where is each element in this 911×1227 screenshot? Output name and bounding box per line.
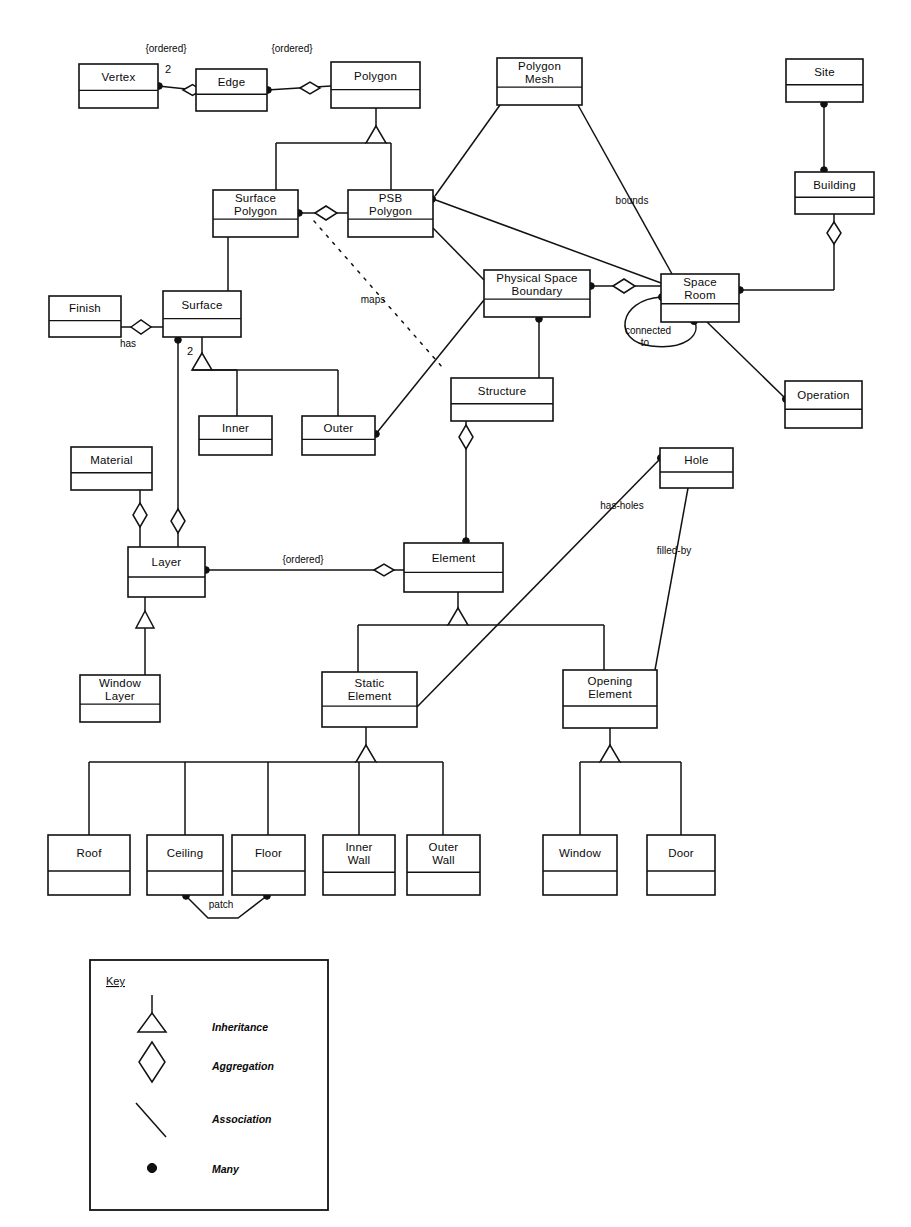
class-box-window_layer[interactable]: WindowLayer bbox=[80, 675, 160, 722]
class-name-text: Element bbox=[588, 688, 632, 700]
class-name-text: Polygon bbox=[518, 60, 561, 72]
legend-aggregation-label: Aggregation bbox=[211, 1060, 274, 1072]
edge-label-maps: maps bbox=[361, 294, 385, 305]
edge-label-mult_vertex: 2 bbox=[165, 63, 171, 75]
class-name-text: Finish bbox=[69, 302, 101, 314]
class-name-text: Outer bbox=[324, 422, 354, 434]
class-box-operation[interactable]: Operation bbox=[785, 381, 862, 428]
class-name-text: Space bbox=[683, 276, 717, 288]
class-name-text: Edge bbox=[218, 76, 246, 88]
class-box-site[interactable]: Site bbox=[786, 59, 863, 102]
class-name-text: Surface bbox=[235, 192, 276, 204]
relationship-connectors bbox=[89, 82, 841, 918]
edge-labels-layer: {ordered}{ordered}2boundsmapshas2connect… bbox=[120, 43, 691, 910]
class-name-text: Element bbox=[348, 690, 392, 702]
class-name-text: Wall bbox=[348, 854, 371, 866]
class-box-static_element[interactable]: StaticElement bbox=[322, 672, 417, 727]
edge-label-connected_to_2: to bbox=[641, 337, 650, 348]
class-boxes-layer: VertexEdgePolygonPolygonMeshSiteSurfaceP… bbox=[48, 58, 874, 895]
class-box-floor[interactable]: Floor bbox=[232, 835, 305, 895]
legend-association-label: Association bbox=[211, 1113, 272, 1125]
class-frame bbox=[647, 835, 715, 895]
class-name-text: Window bbox=[559, 847, 602, 859]
class-box-structure[interactable]: Structure bbox=[451, 378, 553, 421]
class-name-text: PSB bbox=[379, 192, 403, 204]
edge-label-connected_to_1: connected bbox=[625, 325, 671, 336]
class-name-text: Inner bbox=[222, 422, 249, 434]
class-name-text: Operation bbox=[797, 389, 849, 401]
legend-inheritance-label: Inheritance bbox=[212, 1021, 268, 1033]
class-box-ceiling[interactable]: Ceiling bbox=[147, 835, 223, 895]
class-box-material[interactable]: Material bbox=[71, 447, 152, 490]
edge-label-has: has bbox=[120, 338, 136, 349]
class-box-roof[interactable]: Roof bbox=[48, 835, 130, 895]
class-box-outer_wall[interactable]: OuterWall bbox=[407, 835, 480, 895]
class-box-window[interactable]: Window bbox=[543, 835, 617, 895]
class-name-text: Layer bbox=[105, 690, 135, 702]
class-name-text: Polygon bbox=[354, 70, 397, 82]
class-box-finish[interactable]: Finish bbox=[49, 296, 121, 337]
legend-many-symbol bbox=[147, 1163, 156, 1172]
diagram-canvas: VertexEdgePolygonPolygonMeshSiteSurfaceP… bbox=[0, 0, 911, 1227]
class-name-text: Hole bbox=[684, 454, 708, 466]
edge-label-filled_by: filled-by bbox=[657, 545, 691, 556]
class-frame bbox=[232, 835, 305, 895]
class-box-element[interactable]: Element bbox=[404, 543, 503, 592]
class-name-text: Ceiling bbox=[167, 847, 204, 859]
class-name-text: Wall bbox=[432, 854, 455, 866]
legend-frame bbox=[90, 960, 328, 1210]
class-box-surface[interactable]: Surface bbox=[163, 291, 241, 337]
class-box-outer[interactable]: Outer bbox=[302, 416, 375, 455]
class-box-opening_element[interactable]: OpeningElement bbox=[563, 670, 657, 728]
class-box-surface_polygon[interactable]: SurfacePolygon bbox=[213, 190, 298, 237]
legend-key: Key Inheritance Aggregation Association … bbox=[90, 960, 328, 1210]
class-name-text: Floor bbox=[255, 847, 282, 859]
edge-label-ordered_vertex_edge: {ordered} bbox=[145, 43, 187, 54]
class-box-inner_wall[interactable]: InnerWall bbox=[323, 835, 395, 895]
class-box-psb[interactable]: Physical SpaceBoundary bbox=[484, 270, 590, 317]
class-box-psb_polygon[interactable]: PSBPolygon bbox=[348, 190, 433, 237]
class-frame bbox=[785, 381, 862, 428]
edge-label-bounds: bounds bbox=[616, 195, 649, 206]
edge-label-has_holes: has-holes bbox=[600, 500, 643, 511]
class-frame bbox=[128, 547, 205, 597]
class-frame bbox=[404, 543, 503, 592]
class-name-text: Layer bbox=[152, 556, 182, 568]
class-name-text: Outer bbox=[429, 841, 459, 853]
class-name-text: Static bbox=[355, 677, 385, 689]
legend-title: Key bbox=[106, 975, 125, 987]
edge-label-mult_surface: 2 bbox=[187, 345, 193, 357]
class-box-building[interactable]: Building bbox=[795, 172, 874, 214]
class-box-space_room[interactable]: SpaceRoom bbox=[661, 274, 739, 322]
class-name-text: Polygon bbox=[234, 205, 277, 217]
class-name-text: Site bbox=[814, 66, 835, 78]
class-name-text: Door bbox=[668, 847, 694, 859]
class-box-vertex[interactable]: Vertex bbox=[79, 64, 158, 108]
class-frame bbox=[543, 835, 617, 895]
legend-many-label: Many bbox=[212, 1163, 240, 1175]
edge-label-ordered_layer: {ordered} bbox=[282, 554, 324, 565]
class-frame bbox=[147, 835, 223, 895]
class-name-text: Surface bbox=[181, 299, 222, 311]
class-box-polygon[interactable]: Polygon bbox=[331, 62, 420, 108]
class-box-door[interactable]: Door bbox=[647, 835, 715, 895]
class-name-text: Boundary bbox=[512, 285, 563, 297]
edge-label-patch: patch bbox=[209, 899, 233, 910]
class-name-text: Building bbox=[813, 179, 856, 191]
class-frame bbox=[48, 835, 130, 895]
class-box-polygon_mesh[interactable]: PolygonMesh bbox=[497, 58, 582, 105]
class-name-text: Room bbox=[684, 289, 715, 301]
uml-class-diagram: VertexEdgePolygonPolygonMeshSiteSurfaceP… bbox=[0, 0, 911, 1227]
class-name-text: Physical Space bbox=[496, 272, 577, 284]
class-name-text: Element bbox=[432, 552, 476, 564]
class-box-inner[interactable]: Inner bbox=[199, 416, 272, 455]
class-name-text: Window bbox=[99, 677, 142, 689]
class-name-text: Structure bbox=[478, 385, 526, 397]
class-name-text: Inner bbox=[345, 841, 372, 853]
class-name-text: Material bbox=[90, 454, 133, 466]
class-box-layer[interactable]: Layer bbox=[128, 547, 205, 597]
class-name-text: Vertex bbox=[102, 71, 136, 83]
class-box-edge[interactable]: Edge bbox=[196, 69, 267, 111]
class-box-hole[interactable]: Hole bbox=[660, 448, 733, 488]
edge-label-ordered_edge_poly: {ordered} bbox=[271, 43, 313, 54]
